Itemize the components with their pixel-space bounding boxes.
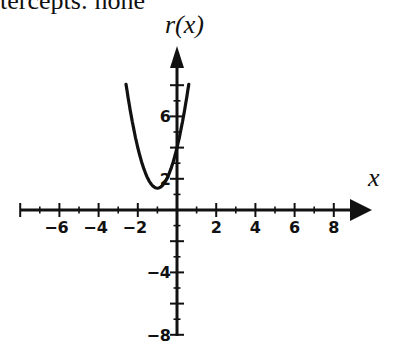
x-tick-label: 8 [328, 218, 339, 237]
x-tick-label: 2 [211, 218, 222, 237]
function-curve [126, 84, 189, 188]
chart-plot: −6−4−2246862−4−8 [0, 0, 394, 352]
x-tick-label: −6 [44, 218, 69, 237]
x-tick-label: −4 [83, 218, 108, 237]
x-tick-label: 4 [250, 218, 261, 237]
y-axis-arrow-icon [170, 46, 184, 68]
y-tick-label: 6 [160, 107, 171, 126]
y-tick-label: −8 [146, 326, 171, 345]
axes [20, 46, 372, 336]
y-tick-label: −4 [146, 263, 171, 282]
x-tick-label: 6 [289, 218, 300, 237]
x-tick-label: −2 [123, 218, 148, 237]
tick-labels: −6−4−2246862−4−8 [44, 107, 339, 344]
x-axis-arrow-icon [350, 199, 372, 221]
